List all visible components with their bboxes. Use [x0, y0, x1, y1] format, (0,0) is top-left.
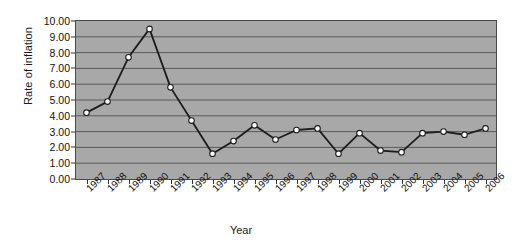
x-tick-label: 2006 [483, 170, 507, 194]
x-tick-label: 1998 [315, 170, 339, 194]
x-tick-label: 2003 [420, 170, 444, 194]
x-tick-label: 2001 [378, 170, 402, 194]
x-tick-label: 1991 [168, 170, 192, 194]
x-tick-label: 1989 [126, 170, 150, 194]
x-tick-label: 1995 [252, 170, 276, 194]
x-axis-ticks: 1987198819891990199119921993199419951996… [0, 0, 520, 246]
x-tick-label: 2002 [399, 170, 423, 194]
x-tick-label: 1987 [84, 170, 108, 194]
x-axis-title: Year [0, 224, 520, 236]
x-tick-label: 1988 [105, 170, 129, 194]
x-tick-label: 1990 [147, 170, 171, 194]
x-tick-label: 2004 [441, 170, 465, 194]
x-tick-label: 2000 [357, 170, 381, 194]
x-tick-label: 1997 [294, 170, 318, 194]
x-tick-label: 1994 [231, 170, 255, 194]
x-axis-title-label: Year [230, 224, 252, 236]
x-tick-label: 1992 [189, 170, 213, 194]
inflation-line-chart: Rate of inflation 0.001.002.003.004.005.… [0, 0, 520, 246]
x-tick-label: 1999 [336, 170, 360, 194]
x-tick-label: 1996 [273, 170, 297, 194]
x-tick-label: 1993 [210, 170, 234, 194]
x-tick-label: 2005 [462, 170, 486, 194]
